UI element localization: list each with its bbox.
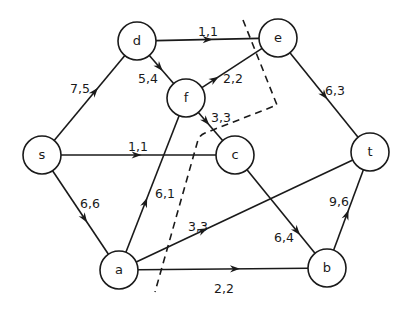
node-label-t: t [367,144,372,159]
edge-label-d-e: 1,1 [198,24,218,39]
node-f: f [167,79,205,117]
arrowhead-icon [342,209,352,221]
edge-label-a-b: 2,2 [214,281,234,296]
edge-label-s-d: 7,5 [70,81,90,96]
node-label-s: s [39,147,46,162]
edge-a-t [136,160,353,262]
edges-layer [53,36,364,273]
node-t: t [351,133,389,171]
node-label-c: c [231,147,238,162]
node-b: b [308,249,346,287]
node-label-e: e [274,30,282,45]
node-c: c [216,136,254,174]
edge-label-s-c: 1,1 [128,139,148,154]
node-label-d: d [133,33,141,48]
edge-s-d [54,56,125,141]
node-label-f: f [184,90,189,105]
edge-label-d-f: 5,4 [138,71,158,86]
edge-label-e-t: 6,3 [325,83,345,98]
edge-label-f-e: 2,2 [223,71,243,86]
arrowhead-icon [79,212,91,224]
node-s: s [23,136,61,174]
node-label-a: a [115,262,123,277]
edge-label-a-f: 6,1 [155,186,175,201]
edge-label-s-a: 6,6 [80,196,100,211]
edge-label-a-t: 3,3 [188,219,208,234]
node-d: d [118,22,156,60]
node-label-b: b [323,260,331,275]
edge-label-f-c: 3,3 [211,110,231,125]
edge-a-f [126,116,179,253]
node-a: a [100,251,138,289]
flow-network-diagram: defsctab 7,51,15,42,23,36,31,16,66,13,36… [0,0,412,309]
edge-label-b-t: 9,6 [329,194,349,209]
edge-s-a [53,171,109,254]
edge-a-b [138,268,308,270]
edge-label-c-b: 6,4 [274,230,294,245]
node-e: e [259,19,297,57]
arrowhead-icon [140,196,150,208]
arrowhead-icon [208,74,220,85]
